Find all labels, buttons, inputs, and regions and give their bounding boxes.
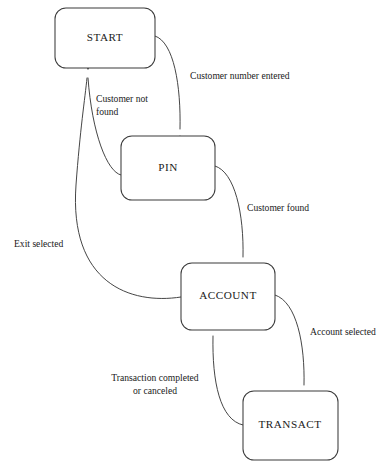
transition-arrow-account-to-transact bbox=[275, 295, 304, 385]
transition-label-line: Transaction completed bbox=[111, 372, 199, 383]
transition-arrow-start-to-pin bbox=[155, 36, 180, 129]
transition-label-account-to-transact: Account selected bbox=[310, 326, 376, 337]
transition-label-line: Customer number entered bbox=[190, 70, 290, 81]
transition-label-start-to-pin: Customer number entered bbox=[190, 70, 290, 81]
state-node-pin[interactable]: PIN bbox=[121, 136, 215, 200]
state-label-pin: PIN bbox=[158, 161, 178, 173]
transition-label-line: Exit selected bbox=[14, 238, 63, 249]
transition-arrow-transact-to-account bbox=[213, 336, 243, 425]
state-label-transact: TRANSACT bbox=[258, 418, 321, 430]
state-label-start: START bbox=[87, 31, 123, 43]
transition-label-pin-to-start: Customer notfound bbox=[96, 93, 148, 117]
transition-pin-to-account bbox=[215, 166, 246, 273]
transition-label-line: Customer not bbox=[96, 93, 148, 104]
transition-transact-to-account bbox=[210, 321, 243, 426]
state-node-start[interactable]: START bbox=[55, 8, 155, 68]
transition-label-pin-to-account: Customer found bbox=[247, 202, 309, 213]
state-node-account[interactable]: ACCOUNT bbox=[181, 263, 275, 330]
transition-label-line: Customer found bbox=[247, 202, 309, 213]
state-diagram-canvas: STARTPINACCOUNTTRANSACT Customer number … bbox=[0, 0, 392, 469]
transition-arrow-pin-to-account bbox=[215, 166, 243, 257]
transition-label-account-to-start: Exit selected bbox=[14, 238, 63, 249]
transition-start-to-pin bbox=[155, 36, 183, 145]
transition-account-to-transact bbox=[275, 295, 307, 401]
transition-label-line: or canceled bbox=[133, 385, 177, 396]
transition-labels-layer: Customer number enteredCustomer notfound… bbox=[14, 70, 376, 396]
transition-label-line: found bbox=[96, 106, 119, 117]
state-diagram: STARTPINACCOUNTTRANSACT Customer number … bbox=[0, 0, 392, 469]
transition-label-line: Account selected bbox=[310, 326, 376, 337]
transition-pin-to-start bbox=[85, 61, 121, 176]
transition-label-transact-to-account: Transaction completedor canceled bbox=[111, 372, 199, 396]
state-node-transact[interactable]: TRANSACT bbox=[243, 391, 338, 460]
state-label-account: ACCOUNT bbox=[199, 289, 257, 301]
